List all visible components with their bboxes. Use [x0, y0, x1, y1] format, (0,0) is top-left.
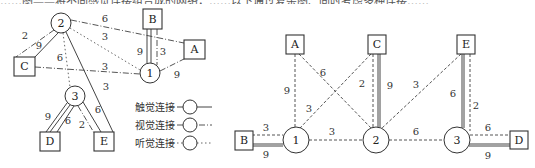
edge-C-1-visual	[35, 67, 140, 74]
weight-label: 9	[284, 85, 290, 96]
node-B-label: B	[240, 134, 248, 147]
weight-label: 9	[485, 150, 491, 161]
weight-label: 2	[79, 119, 85, 130]
weight-label: 9	[263, 149, 269, 160]
node-E-label: E	[462, 38, 470, 51]
node-C-label: C	[20, 60, 28, 73]
weight-label: 6	[413, 126, 419, 137]
node-C-label: C	[373, 38, 381, 51]
legend-circle-tactile	[183, 100, 197, 114]
legend-circle-audio	[183, 136, 197, 150]
weight-label: 6	[485, 122, 491, 133]
right-graph: 9 6 3 2 9 3 6 2 3 9 3 6 6 9 1 2 3 A C E …	[235, 35, 528, 161]
weight-label: 2	[359, 78, 365, 89]
weight-label: 9	[45, 111, 51, 122]
edge-2-A-visual	[71, 20, 184, 43]
weight-label: 3	[263, 122, 269, 133]
weight-label: 3	[102, 31, 108, 42]
weight-label: 6	[65, 115, 71, 126]
weight-label: 3	[102, 61, 108, 72]
node-1-label: 1	[147, 67, 154, 80]
weight-label: 3	[329, 126, 335, 137]
node-3-label: 3	[454, 134, 461, 147]
weight-label: 6	[95, 104, 101, 115]
node-3-label: 3	[72, 90, 79, 103]
legend-label-visual: 视觉连接	[135, 119, 175, 131]
network-diagrams: 2 9 6 3 6 3 3 9 3 9 9 6 2 6 2 1 3 B A C …	[0, 0, 535, 168]
weight-label: 2	[473, 100, 479, 111]
weight-label: 3	[413, 79, 419, 90]
weight-label: 6	[57, 52, 63, 63]
weight-label: 9	[137, 46, 143, 57]
node-A-label: A	[190, 43, 200, 56]
node-2-label: 2	[373, 134, 380, 147]
legend-circle-visual	[183, 118, 197, 132]
legend: 触觉连接 视觉连接 听觉连接	[135, 100, 212, 150]
node-A-label: A	[290, 38, 300, 51]
legend-label-audio: 听觉连接	[135, 137, 175, 149]
node-E-label: E	[100, 135, 108, 148]
weight-label: 2	[22, 30, 28, 41]
weight-label: 3	[160, 46, 166, 57]
legend-label-tactile: 触觉连接	[135, 101, 175, 113]
node-2-label: 2	[58, 17, 65, 30]
weight-label: 9	[387, 80, 393, 91]
weight-label: 3	[103, 81, 109, 92]
node-D-label: D	[46, 135, 55, 148]
weight-label: 6	[450, 88, 456, 99]
node-B-label: B	[148, 13, 156, 26]
node-1-label: 1	[293, 134, 300, 147]
weight-label: 9	[174, 69, 180, 80]
node-D-label: D	[515, 134, 524, 147]
weight-label: 3	[306, 103, 312, 114]
left-graph: 2 9 6 3 6 3 3 9 3 9 9 6 2 6 2 1 3 B A C …	[14, 9, 205, 151]
edge-2-3-audio	[63, 33, 70, 87]
weight-label: 6	[320, 67, 326, 78]
weight-label: 9	[36, 40, 42, 51]
weight-label: 6	[102, 13, 108, 24]
